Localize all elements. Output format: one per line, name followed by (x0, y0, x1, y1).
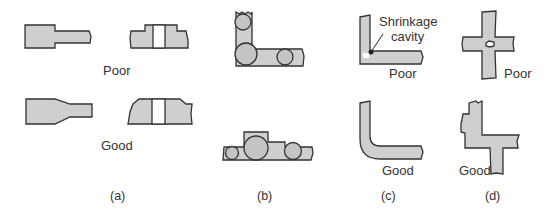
panel-a-caption: (a) (110, 189, 125, 203)
panel-a-good-label: Good (101, 138, 133, 153)
shrinkage-label-line1: Shrinkage (379, 14, 438, 29)
panel-c: Shrinkage cavity Poor Good (c) (360, 14, 438, 203)
inscribed-circle-small (277, 49, 293, 65)
inscribed-circle-medium (285, 143, 302, 160)
shrinkage-cavity (363, 53, 369, 58)
good-boss-with-hole (128, 99, 192, 124)
rounded-corner-l-section (360, 101, 423, 159)
panel-c-good-label: Good (382, 163, 414, 178)
panel-a-poor-label: Poor (103, 63, 131, 78)
poor-boss-with-hole (130, 25, 188, 48)
panel-d-good-label: Good (459, 163, 491, 178)
panel-a: Poor Good (a) (25, 25, 192, 203)
panel-d: Poor Good (d) (459, 11, 532, 203)
inscribed-circle-small (226, 147, 239, 160)
shrinkage-label-line2: cavity (391, 29, 425, 44)
inscribed-circle-large (235, 43, 257, 65)
panel-d-poor-label: Poor (504, 66, 532, 81)
panel-b: (b) (223, 12, 313, 203)
casting-design-diagram: Poor Good (a) (b) Shrinkage cavity Poor … (0, 0, 549, 211)
panel-c-caption: (c) (381, 189, 396, 203)
poor-stepped-section (25, 25, 91, 48)
inscribed-circle-large (244, 136, 268, 160)
annotation-leader-line (371, 34, 383, 52)
panel-c-poor-label: Poor (389, 66, 417, 81)
good-tapered-section (26, 99, 92, 124)
shrinkage-void (486, 41, 494, 47)
inscribed-circle-small (235, 14, 251, 30)
panel-b-caption: (b) (257, 189, 272, 203)
panel-d-caption: (d) (485, 189, 500, 203)
